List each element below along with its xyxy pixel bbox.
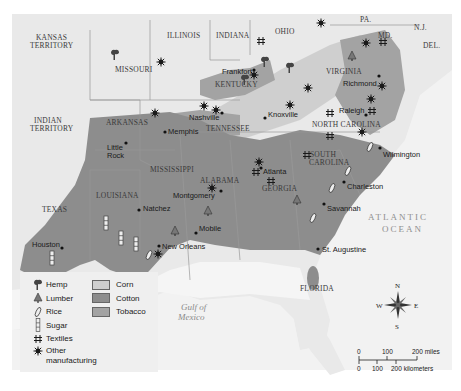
legend-symbols: Hemp Lumber Rice Sugar Textiles Otherman…: [30, 278, 97, 366]
scale-miles-0: 0: [357, 348, 361, 355]
sugar-cane-icon: [134, 237, 138, 251]
tobacco-swatch: [92, 307, 110, 317]
state-label-kentucky: KENTUCKY: [215, 80, 258, 89]
city-charleston: Charleston: [347, 182, 383, 191]
state-label-louisiana: LOUISIANA: [96, 191, 139, 200]
cotton-swatch: [92, 293, 110, 303]
state-label-indiana: INDIANA: [216, 31, 250, 40]
legend-item-sugar: Sugar: [30, 319, 97, 333]
city-richmond: Richmond: [343, 79, 377, 88]
legend-item-textiles: Textiles: [30, 332, 97, 346]
gear-star-icon: [255, 158, 264, 167]
city-raleigh: Raleigh: [339, 106, 364, 115]
state-label-illinois: ILLINOIS: [167, 31, 200, 40]
legend-item-cotton: Cotton: [92, 292, 146, 306]
city-wilmington: Wilmington: [383, 150, 420, 159]
city-atlanta: Atlanta: [263, 167, 287, 176]
city-houston: Houston: [32, 240, 60, 249]
state-label-kansas-2: TERRITORY: [30, 41, 74, 50]
legend-item-corn: Corn: [92, 278, 146, 292]
state-label-pa: PA.: [360, 15, 371, 24]
tree-icon: [30, 292, 46, 304]
city-nashville: Nashville: [189, 113, 219, 122]
legend-item-other-manufacturing: Othermanufacturing: [30, 346, 97, 366]
city-new-orleans: New Orleans: [162, 242, 206, 251]
textiles-hash-icon: [30, 334, 46, 344]
sugar-cane-icon: [119, 231, 123, 245]
compass-w: W: [376, 302, 383, 310]
gear-star-icon: [208, 184, 217, 193]
state-label-tennessee: TENNESSEE: [206, 124, 250, 133]
state-label-georgia: GEORGIA: [262, 184, 298, 193]
state-label-virginia: VIRGINIA: [326, 67, 362, 76]
hemp-icon: [30, 279, 46, 291]
state-label-ohio: OHIO: [275, 27, 295, 36]
scale-km-100: 100: [372, 365, 383, 372]
state-label-north-carolina: NORTH CAROLINA: [312, 120, 381, 129]
legend-areas: Corn Cotton Tobacco: [92, 278, 146, 319]
legend-item-lumber: Lumber: [30, 292, 97, 306]
gear-star-icon: [200, 102, 209, 111]
gear-star-icon: [286, 101, 295, 110]
gear-star-icon: [154, 250, 163, 259]
gulf-label-1: Gulf of: [181, 302, 208, 312]
city-mobile: Mobile: [199, 224, 221, 233]
state-label-nj: N.J.: [414, 23, 427, 32]
compass-e: E: [414, 302, 418, 310]
state-label-alabama: ALABAMA: [200, 176, 240, 185]
scale-miles-200: 200 miles: [412, 348, 441, 355]
sugar-cane-icon: [50, 251, 54, 265]
gear-star-icon: [378, 82, 387, 91]
gear-star-icon: [157, 58, 166, 67]
city-knoxville: Knoxville: [268, 110, 298, 119]
gear-star-icon: [362, 39, 371, 48]
gear-star-icon: [304, 84, 313, 93]
state-label-texas: TEXAS: [42, 205, 67, 214]
city-st-augustine: St. Augustine: [322, 245, 366, 254]
city-little-rock-2: Rock: [107, 151, 124, 160]
state-label-missouri: MISSOURI: [115, 65, 153, 74]
ocean-label-2: OCEAN: [382, 224, 423, 234]
city-memphis: Memphis: [168, 127, 199, 136]
corn-swatch: [92, 280, 110, 290]
legend-item-hemp: Hemp: [30, 278, 97, 292]
gear-star-icon: [151, 109, 160, 118]
ocean-label-1: ATLANTIC: [368, 212, 428, 222]
legend-item-rice: Rice: [30, 305, 97, 319]
gear-star-icon: [358, 128, 367, 137]
state-label-florida: FLORIDA: [300, 284, 334, 293]
city-frankfort: Frankfort: [222, 67, 253, 76]
compass-s: S: [395, 323, 399, 331]
city-natchez: Natchez: [143, 204, 171, 213]
city-savannah: Savannah: [327, 204, 361, 213]
scale-miles-100: 100: [382, 348, 393, 355]
state-label-indian-territory-2: TERRITORY: [30, 124, 74, 133]
gear-star-icon: [367, 95, 376, 104]
scale-km-0: 0: [357, 365, 361, 372]
gulf-label-2: Mexico: [177, 312, 205, 322]
legend-item-tobacco: Tobacco: [92, 305, 146, 319]
city-montgomery: Montgomery: [173, 191, 215, 200]
state-label-mississippi: MISSISSIPPI: [150, 165, 194, 174]
compass-n: N: [395, 282, 400, 290]
state-label-arkansas: ARKANSAS: [106, 118, 148, 127]
rice-grain-icon: [30, 306, 46, 318]
state-label-south-carolina-2: CAROLINA: [309, 158, 350, 167]
gear-star-icon: [212, 106, 221, 115]
gear-star-icon: [250, 71, 259, 80]
gear-star-icon: [30, 346, 46, 356]
scale-km-200: 200 kilometers: [391, 365, 434, 372]
sugar-cane-icon: [104, 216, 108, 230]
map-legend: Hemp Lumber Rice Sugar Textiles Otherman…: [20, 272, 158, 372]
state-label-del: DEL.: [423, 41, 440, 50]
gear-star-icon: [317, 19, 326, 28]
sugar-cane-icon: [30, 318, 46, 332]
